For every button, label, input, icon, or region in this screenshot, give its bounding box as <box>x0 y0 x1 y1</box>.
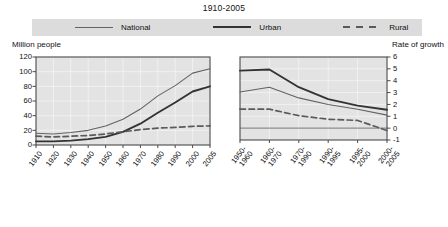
legend-item-label: Rural <box>389 23 408 32</box>
legend-item-label: Urban <box>259 23 281 32</box>
y-axis-tick-label: -1 <box>393 135 400 144</box>
left-axis-caption: Million people <box>12 40 61 49</box>
population-line-chart <box>12 52 212 177</box>
y-axis-tick-label: 0 <box>8 140 32 149</box>
dashed-line-swatch-icon <box>343 24 381 32</box>
y-axis-tick-label: 80 <box>8 82 32 91</box>
y-axis-tick-label: 2 <box>393 100 397 109</box>
growth-rate-chart-panel: -101234561950-19601960-19701970-19901990… <box>236 52 411 192</box>
y-axis-tick-label: 100 <box>8 67 32 76</box>
chart-legend: National Urban Rural <box>32 19 422 36</box>
y-axis-tick-label: 6 <box>393 52 397 61</box>
y-axis-tick-label: 60 <box>8 96 32 105</box>
y-axis-tick-label: 3 <box>393 88 397 97</box>
chart-page: 1910-2005 National Urban Rural Million p… <box>0 0 448 227</box>
legend-item-rural[interactable]: Rural <box>343 23 408 32</box>
population-chart-panel: 0204060801001201910192019301940195019601… <box>12 52 212 177</box>
y-axis-tick-label: 5 <box>393 64 397 73</box>
y-axis-tick-label: 120 <box>8 52 32 61</box>
line-swatch-icon <box>213 24 251 32</box>
page-title: 1910-2005 <box>0 3 448 13</box>
legend-item-urban[interactable]: Urban <box>213 23 281 32</box>
line-swatch-icon <box>75 24 113 32</box>
y-axis-tick-label: 40 <box>8 111 32 120</box>
y-axis-tick-label: 1 <box>393 112 397 121</box>
legend-item-national[interactable]: National <box>75 23 150 32</box>
right-axis-caption: Rate of growth <box>392 40 444 49</box>
y-axis-tick-label: 0 <box>393 124 397 133</box>
legend-item-label: National <box>121 23 150 32</box>
y-axis-tick-label: 20 <box>8 126 32 135</box>
y-axis-tick-label: 4 <box>393 76 397 85</box>
